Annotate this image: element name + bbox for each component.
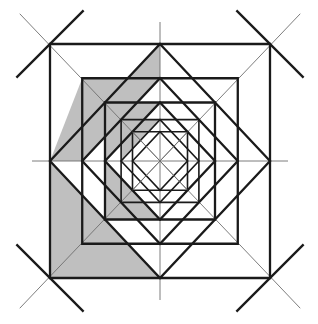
geometric-figure-root: Nested squares and diamonds geometric co… xyxy=(0,0,318,324)
nested-squares-diagram: Nested squares and diamonds geometric co… xyxy=(0,0,318,324)
